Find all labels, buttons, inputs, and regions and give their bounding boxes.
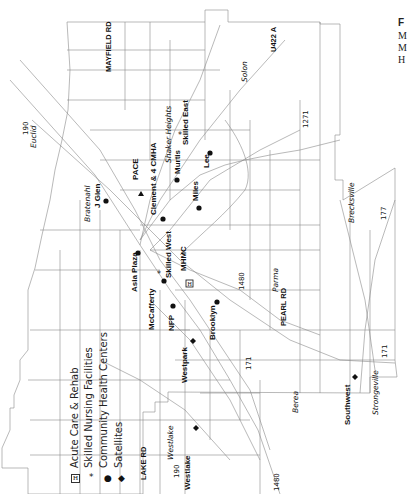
highway-label-i90-west: 190 [174,465,181,478]
road-label-lake: LAKE RD [140,447,148,480]
facility-label-lee: Lee [203,154,211,168]
city-label-parma: Parma [272,268,280,292]
legend-label-acute-care: Acute Care & Rehab [70,367,80,468]
road-label-mayfield: MAYFIELD RD [105,21,113,72]
facility-label-asia-plaza: Asia Plaza [131,252,139,292]
highway-label-i480-west: 1480 [274,473,281,491]
facility-label-skilled-east: Skilled East [182,100,190,145]
jglen-marker [103,198,108,203]
acute-care-icon: H [71,474,80,483]
facility-label-miles: Miles [192,181,200,201]
brooklyn-marker [214,299,219,304]
facility-label-nfp: NFP [168,315,176,331]
city-label-berea: Berea [292,391,300,413]
facility-label-pace: PACE [132,158,140,180]
facility-label-westlake: Westlake [184,455,192,490]
county-boundary [2,10,397,494]
community-health-icon: ● [104,474,112,483]
city-label-westlake: Westlake [167,425,175,460]
legend-label-community-health: Community Health Centers [99,332,109,468]
facility-label-brooklyn: Brooklyn [209,305,217,340]
murtis-marker [174,177,179,182]
road-label-u422: U422 A [270,27,278,52]
pace-marker [138,191,144,196]
westlake-marker [193,425,199,431]
corner-line-3: M [398,43,407,53]
corner-line-2: M [398,31,407,41]
highway-label-i480-mid: 1480 [239,272,246,290]
corner-line-4: H [398,55,405,65]
city-label-euclid: Euclid [30,125,38,148]
miles-marker [196,205,201,210]
skilled-west-star-marker: * [157,270,161,279]
road-label-pearl: PEARL RD [280,288,288,326]
southwest-marker [352,374,358,380]
city-label-brecksville: Brecksville [348,182,356,223]
legend-label-skilled-nursing: Skilled Nursing Facilities [84,347,94,468]
city-label-strongsville: Strongeville [372,370,380,415]
highway-label-i71-mid: 171 [246,357,253,370]
skilled-west-marker [160,216,165,221]
facility-label-mhmc: MHMC [180,246,188,271]
city-label-bratenahl: Bratenahl [84,185,92,222]
facility-label-clement: Clement & 4 CMHA [150,143,158,215]
nfp-marker [170,303,175,308]
skilled-nursing-icon: * [89,473,94,482]
facility-label-mccafferty: McCafferty [148,289,156,330]
facility-label-jglen: J Glen [94,184,102,208]
facility-label-westpark: Westpark [181,347,189,383]
facility-label-skilled-west: Skilled West [165,231,173,278]
city-label-solon: Solon [241,61,249,82]
legend-label-satellites: Satellites [114,422,124,468]
highway-label-i71-south: 171 [382,345,389,358]
corner-line-1: F [398,18,404,28]
highway-label-i77: 177 [381,207,388,220]
westpark-marker [190,338,196,344]
mccafferty-marker [161,278,166,283]
facility-label-murtis: Murtis [174,150,182,174]
city-label-shaker-heights: Shaker Heights [165,106,173,163]
satellite-icon: ◆ [118,474,125,483]
svg-text:H: H [188,281,193,287]
facility-label-southwest: Southwest [344,385,352,425]
highway-label-i271: 1271 [303,110,310,128]
